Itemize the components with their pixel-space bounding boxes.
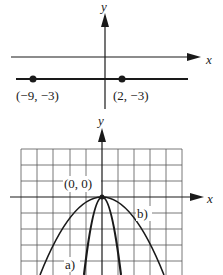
fig2-x-label: x (206, 191, 213, 206)
fig1-point-2-neg3 (119, 76, 126, 83)
fig2-vertex-label: (0, 0) (64, 176, 92, 191)
fig2-curve-b-label: b) (137, 206, 148, 221)
fig2-x-arrow-icon (190, 193, 204, 201)
fig1-point-label-1: (−9, −3) (16, 88, 59, 103)
figure2: y x (0, 0) b) a) (10, 113, 213, 275)
fig2-vertex-point (100, 195, 105, 200)
figure1: y x (−9, −3) (2, −3) (11, 0, 212, 109)
fig2-y-arrow-icon (98, 128, 106, 142)
fig1-x-arrow-icon (187, 53, 201, 61)
fig1-point-label-2: (2, −3) (113, 88, 149, 103)
fig1-x-label: x (205, 52, 212, 67)
figure-canvas: y x (−9, −3) (2, −3) (0, 0, 223, 275)
fig1-y-arrow-icon (101, 13, 109, 27)
fig2-curve-a-label: a) (65, 257, 75, 272)
fig2-y-label: y (96, 113, 104, 128)
fig1-y-label: y (99, 0, 107, 14)
fig1-point-neg9-neg3 (30, 76, 37, 83)
